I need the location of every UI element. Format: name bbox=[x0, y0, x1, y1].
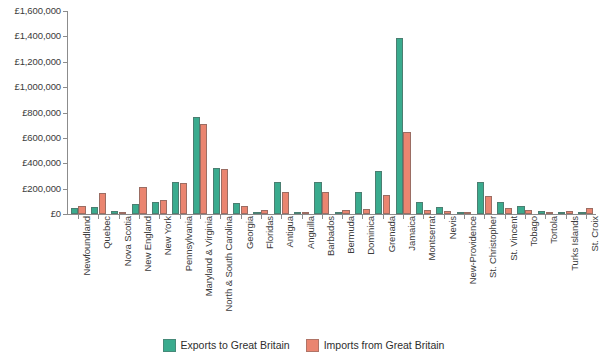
bar-imports bbox=[200, 124, 207, 214]
x-tick-mark bbox=[281, 215, 282, 219]
y-tick-mark bbox=[63, 214, 67, 215]
bar-group bbox=[477, 11, 492, 214]
bar-imports bbox=[566, 211, 573, 214]
x-tick-label: Anguilla bbox=[306, 216, 316, 249]
bar-imports bbox=[586, 208, 593, 214]
x-tick-mark bbox=[362, 215, 363, 219]
x-tick-label: Nova Scotia bbox=[123, 216, 133, 266]
bar-group bbox=[578, 11, 593, 214]
x-tick-mark bbox=[403, 215, 404, 219]
bar-imports bbox=[221, 169, 228, 214]
y-tick-label: £1,200,000 bbox=[14, 57, 61, 67]
bar-exports bbox=[396, 38, 403, 214]
y-tick-label: £800,000 bbox=[22, 108, 61, 118]
x-tick-label: Floridas bbox=[265, 216, 275, 249]
x-tick-label: St. Croix bbox=[590, 216, 600, 252]
x-tick-label: New York bbox=[163, 216, 173, 255]
x-tick-label: Georgia bbox=[245, 216, 255, 249]
bar-exports bbox=[457, 212, 464, 214]
x-tick-mark bbox=[200, 215, 201, 219]
bar-group bbox=[375, 11, 390, 214]
bar-exports bbox=[497, 202, 504, 214]
bar-group bbox=[71, 11, 86, 214]
bar-exports bbox=[274, 182, 281, 214]
x-tick-label: Quebec bbox=[102, 216, 112, 249]
x-tick-mark bbox=[98, 215, 99, 219]
x-tick-mark bbox=[139, 215, 140, 219]
bar-imports bbox=[160, 200, 167, 214]
x-tick-label: Newfoundland bbox=[82, 216, 92, 276]
y-tick-mark bbox=[63, 11, 67, 12]
bar-exports bbox=[71, 208, 78, 214]
y-tick-label: £1,000,000 bbox=[14, 82, 61, 92]
bar-imports bbox=[302, 212, 309, 214]
y-tick-mark bbox=[63, 189, 67, 190]
bar-exports bbox=[314, 182, 321, 214]
x-tick-mark bbox=[586, 215, 587, 219]
bar-exports bbox=[91, 207, 98, 214]
x-tick-label: North & South Carolina bbox=[224, 216, 234, 312]
y-tick-label: £1,400,000 bbox=[14, 31, 61, 41]
y-tick-mark bbox=[63, 138, 67, 139]
bar-exports bbox=[172, 182, 179, 214]
y-tick-mark bbox=[63, 87, 67, 88]
x-tick-label: Grenada bbox=[387, 216, 397, 252]
bar-imports bbox=[464, 212, 471, 214]
bar-imports bbox=[546, 212, 553, 214]
x-tick-mark bbox=[525, 215, 526, 219]
bar-group bbox=[172, 11, 187, 214]
bar-group bbox=[91, 11, 106, 214]
bar-exports bbox=[111, 211, 118, 214]
x-tick-label: Barbados bbox=[326, 216, 336, 256]
x-tick-mark bbox=[423, 215, 424, 219]
bar-exports bbox=[517, 206, 524, 214]
bar-group bbox=[558, 11, 573, 214]
chart-legend: Exports to Great BritainImports from Gre… bbox=[0, 336, 607, 354]
bar-group bbox=[274, 11, 289, 214]
y-tick-mark bbox=[63, 113, 67, 114]
y-tick-label: £600,000 bbox=[22, 133, 61, 143]
bar-exports bbox=[213, 168, 220, 214]
x-tick-label: Jamaica bbox=[407, 216, 417, 251]
x-tick-mark bbox=[159, 215, 160, 219]
x-tick-mark bbox=[444, 215, 445, 219]
bar-imports bbox=[139, 187, 146, 214]
bar-exports bbox=[538, 211, 545, 214]
x-tick-label: Nevis bbox=[448, 216, 458, 239]
bar-exports bbox=[355, 192, 362, 214]
legend-swatch-exports-icon bbox=[163, 339, 176, 352]
y-tick-label: £400,000 bbox=[22, 158, 61, 168]
bar-imports bbox=[383, 195, 390, 214]
x-tick-mark bbox=[180, 215, 181, 219]
bar-exports bbox=[152, 202, 159, 214]
legend-item-imports[interactable]: Imports from Great Britain bbox=[306, 339, 445, 352]
bar-imports bbox=[322, 192, 329, 214]
y-tick-mark bbox=[63, 62, 67, 63]
bar-imports bbox=[99, 193, 106, 214]
bar-group bbox=[517, 11, 532, 214]
bar-imports bbox=[180, 183, 187, 214]
x-tick-label: New-Providence bbox=[468, 216, 478, 284]
bar-exports bbox=[253, 212, 260, 214]
x-tick-mark bbox=[505, 215, 506, 219]
x-tick-mark bbox=[261, 215, 262, 219]
legend-swatch-imports-icon bbox=[306, 339, 319, 352]
legend-item-exports[interactable]: Exports to Great Britain bbox=[163, 339, 290, 352]
bar-group bbox=[132, 11, 147, 214]
bar-imports bbox=[363, 209, 370, 214]
legend-label: Imports from Great Britain bbox=[324, 340, 445, 351]
x-tick-mark bbox=[78, 215, 79, 219]
bar-imports bbox=[485, 196, 492, 214]
bar-group bbox=[193, 11, 208, 214]
x-tick-mark bbox=[566, 215, 567, 219]
bar-imports bbox=[403, 132, 410, 214]
bar-imports bbox=[505, 208, 512, 214]
bar-group bbox=[213, 11, 228, 214]
y-axis-labels: £0£200,000£400,000£600,000£800,000£1,000… bbox=[0, 0, 64, 224]
x-tick-mark bbox=[302, 215, 303, 219]
bar-imports bbox=[78, 206, 85, 214]
legend-label: Exports to Great Britain bbox=[181, 340, 290, 351]
plot-area bbox=[68, 11, 596, 214]
x-tick-label: Tortola bbox=[549, 216, 559, 244]
bar-imports bbox=[261, 210, 268, 214]
